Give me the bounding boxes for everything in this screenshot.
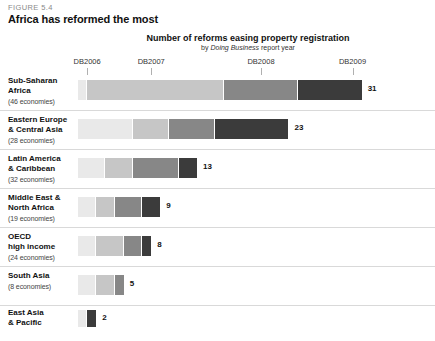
category-label: South Asia(8 economies) [8,271,74,292]
category-economies-count: (28 economies) [8,136,74,146]
category-label-line2: & Central Asia [8,125,62,134]
category-label-line1: Sub-Saharan [8,76,57,85]
category-label-line2: North Africa [8,203,54,212]
bar-total-value: 8 [157,240,161,249]
chart-row: South Asia(8 economies)5 [0,267,435,306]
category-economies-count: (19 economies) [8,214,74,224]
chart-plot-area: Sub-SaharanAfrica(46 economies)31Eastern… [0,72,435,341]
bar-segment-db2009[interactable] [87,310,96,327]
bar-total-value: 31 [368,84,377,93]
bar-segment-db2007[interactable] [96,275,114,295]
category-label-line1: East Asia [8,308,44,317]
bar-total-value: 5 [130,279,134,288]
category-label: East Asia& Pacific [8,308,74,327]
chart-subtitle: by Doing Business report year [78,44,418,51]
category-label-line2: Africa [8,86,31,95]
axis-tick-label: DB2008 [247,57,274,66]
category-economies-count: (8 economies) [8,282,74,292]
stacked-bar[interactable] [78,236,151,256]
bar-segment-db2006[interactable] [78,80,87,100]
chart-title: Number of reforms easing property regist… [78,33,418,43]
stacked-bar[interactable] [78,80,362,100]
bar-segment-db2006[interactable] [78,310,87,327]
category-label: Eastern Europe& Central Asia(28 economie… [8,115,74,145]
category-label: Sub-SaharanAfrica(46 economies) [8,76,74,106]
chart-subtitle-suffix: report year [259,44,295,51]
category-label-line1: Eastern Europe [8,115,67,124]
bar-segment-db2006[interactable] [78,236,96,256]
chart-row: Eastern Europe& Central Asia(28 economie… [0,111,435,150]
stacked-bar[interactable] [78,310,96,327]
bar-segment-db2009[interactable] [179,158,197,178]
chart-row: Middle East &North Africa(19 economies)9 [0,189,435,228]
category-label-line1: Latin America [8,154,61,163]
bar-segment-db2009[interactable] [142,197,160,217]
category-economies-count: (46 economies) [8,97,74,107]
category-label: OECDhigh income(24 economies) [8,232,74,262]
bar-segment-db2006[interactable] [78,197,96,217]
bar-total-value: 23 [294,123,303,132]
bar-segment-db2008[interactable] [133,158,179,178]
bar-segment-db2007[interactable] [133,119,170,139]
category-label-line1: Middle East & [8,193,60,202]
bar-segment-db2008[interactable] [124,236,142,256]
bar-segment-db2007[interactable] [96,236,123,256]
category-label-line2: & Caribbean [8,164,55,173]
figure-label: FIGURE 5.4 [8,3,53,12]
stacked-bar[interactable] [78,197,160,217]
category-label-line2: & Pacific [8,318,42,327]
bar-segment-db2007[interactable] [105,158,132,178]
figure-title: Africa has reformed the most [8,13,158,25]
bar-segment-db2006[interactable] [78,275,96,295]
category-economies-count: (24 economies) [8,253,74,263]
stacked-bar[interactable] [78,158,197,178]
chart-row: East Asia& Pacific2 [0,306,435,341]
bar-segment-db2008[interactable] [169,119,215,139]
category-label-line1: South Asia [8,271,49,280]
bar-segment-db2007[interactable] [96,197,114,217]
category-label: Middle East &North Africa(19 economies) [8,193,74,223]
bar-total-value: 9 [166,201,170,210]
category-label: Latin America& Caribbean(32 economies) [8,154,74,184]
bar-segment-db2007[interactable] [87,80,224,100]
bar-total-value: 13 [203,162,212,171]
stacked-bar[interactable] [78,275,124,295]
chart-subtitle-source: Doing Business [210,44,259,51]
chart-row: Latin America& Caribbean(32 economies)13 [0,150,435,189]
axis-tick-label: DB2007 [138,57,165,66]
bar-total-value: 2 [102,313,106,322]
category-label-line1: OECD [8,232,31,241]
category-label-line2: high income [8,242,55,251]
axis-tick-label: DB2006 [74,57,101,66]
bar-segment-db2006[interactable] [78,119,133,139]
bar-segment-db2009[interactable] [215,119,288,139]
stacked-bar[interactable] [78,119,288,139]
bar-segment-db2009[interactable] [298,80,362,100]
category-economies-count: (32 economies) [8,175,74,185]
bar-segment-db2009[interactable] [142,236,151,256]
bar-segment-db2008[interactable] [115,275,124,295]
bar-segment-db2006[interactable] [78,158,105,178]
bar-segment-db2008[interactable] [224,80,297,100]
chart-row: OECDhigh income(24 economies)8 [0,228,435,267]
chart-row: Sub-SaharanAfrica(46 economies)31 [0,72,435,111]
axis-tick-label: DB2009 [339,57,366,66]
bar-segment-db2008[interactable] [115,197,142,217]
